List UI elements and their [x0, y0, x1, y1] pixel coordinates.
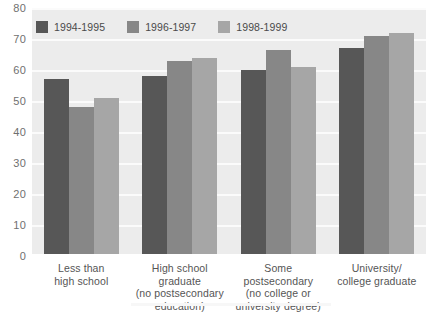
y-axis-tick: 10: [13, 219, 26, 231]
bar[interactable]: [339, 48, 364, 256]
bar[interactable]: [192, 58, 217, 256]
axis-baseline: [32, 254, 426, 256]
legend-swatch-icon: [218, 21, 230, 33]
y-axis-tick: 50: [13, 95, 26, 107]
y-axis-tick: 60: [13, 64, 26, 76]
bar[interactable]: [69, 107, 94, 256]
bar[interactable]: [364, 36, 389, 256]
bar-group: [328, 8, 427, 256]
bar[interactable]: [389, 33, 414, 256]
legend-swatch-icon: [36, 21, 48, 33]
legend: 1994-19951996-19971998-1999: [36, 21, 287, 33]
y-axis-tick: 70: [13, 33, 26, 45]
x-axis-label: University/college graduate: [328, 262, 427, 312]
legend-swatch-icon: [127, 21, 139, 33]
legend-item[interactable]: 1998-1999: [218, 21, 287, 33]
y-axis-tick: 0: [20, 250, 26, 262]
bar-groups: [32, 8, 426, 256]
y-axis-tick: 30: [13, 157, 26, 169]
y-axis-tick: 80: [13, 2, 26, 14]
bar[interactable]: [44, 79, 69, 256]
legend-label: 1994-1995: [54, 21, 105, 33]
y-axis-tick: 20: [13, 188, 26, 200]
x-axis-label: Less thanhigh school: [32, 262, 131, 312]
y-axis-tick: 40: [13, 126, 26, 138]
legend-item[interactable]: 1996-1997: [127, 21, 196, 33]
y-axis: 80706050403020100: [0, 8, 30, 256]
bar-group: [229, 8, 328, 256]
bar[interactable]: [266, 50, 291, 256]
bar[interactable]: [241, 70, 266, 256]
bar[interactable]: [94, 98, 119, 256]
bar[interactable]: [142, 76, 167, 256]
footer-strip: [131, 303, 331, 306]
legend-item[interactable]: 1994-1995: [36, 21, 105, 33]
legend-label: 1996-1997: [145, 21, 196, 33]
bar[interactable]: [291, 67, 316, 256]
plot-area: [32, 8, 426, 256]
bar[interactable]: [167, 61, 192, 256]
bar-group: [32, 8, 131, 256]
legend-label: 1998-1999: [236, 21, 287, 33]
bar-group: [131, 8, 230, 256]
